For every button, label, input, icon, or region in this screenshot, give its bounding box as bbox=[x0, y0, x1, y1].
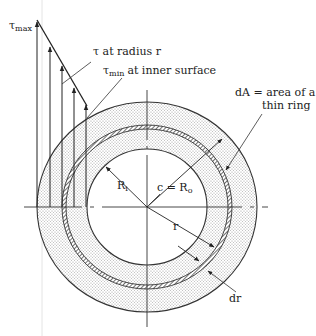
dA-label-line2: thin ring bbox=[262, 99, 311, 112]
tau-min-label: τminat inner surface bbox=[103, 64, 216, 78]
c-Ro-label: c = Ro bbox=[157, 181, 193, 195]
tau-max-label: τmax bbox=[9, 19, 32, 33]
tau-at-radius-label: τ at radius r bbox=[93, 45, 162, 58]
dA-label-line1: dA = area of a bbox=[235, 86, 316, 99]
shaft-torsion-diagram: τmax τ at radius r τminat inner surface … bbox=[0, 0, 316, 336]
tau-r-leader bbox=[62, 62, 91, 84]
r-label: r bbox=[173, 220, 179, 233]
dr-label: dr bbox=[229, 292, 242, 305]
